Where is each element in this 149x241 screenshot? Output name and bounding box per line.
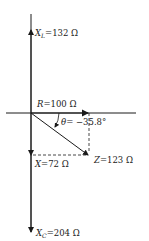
theta-arc [55,113,59,127]
r-label: R=100 Ω [37,100,77,109]
xc-label: XC=204 Ω [36,229,80,239]
x-label: X=72 Ω [35,160,69,169]
xl-label: XL=132 Ω [35,29,78,39]
theta-label: θ= −35.8° [61,118,106,127]
z-label: Z=123 Ω [94,156,133,165]
